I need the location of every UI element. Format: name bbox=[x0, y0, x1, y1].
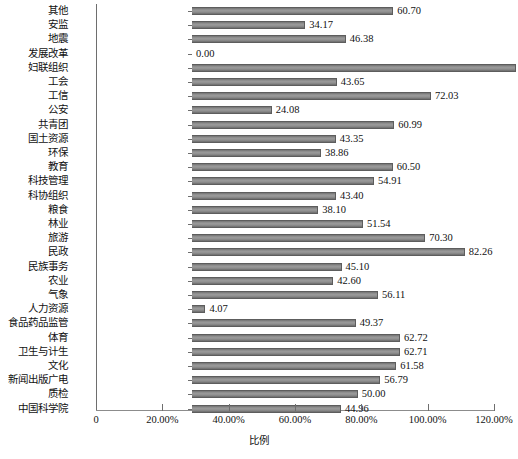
bar bbox=[192, 390, 358, 398]
bar-value-label: 0.00 bbox=[196, 47, 214, 61]
category-label: 质检 bbox=[0, 387, 68, 401]
bar-row: 国土资源43.35 bbox=[96, 132, 494, 146]
bar-row: 共青团60.99 bbox=[96, 118, 494, 132]
bar bbox=[192, 263, 342, 271]
bar-row: 气象56.11 bbox=[96, 288, 494, 302]
category-label: 国土资源 bbox=[0, 132, 68, 146]
x-axis-tick bbox=[295, 404, 296, 411]
bar bbox=[192, 305, 205, 313]
bar-value-label: 70.30 bbox=[429, 231, 453, 245]
bar-row: 公安24.08 bbox=[96, 103, 494, 117]
bar bbox=[192, 149, 321, 157]
bar-row: 民政82.26 bbox=[96, 245, 494, 259]
bar-row: 工信72.03 bbox=[96, 89, 494, 103]
category-label: 工信 bbox=[0, 89, 68, 103]
bar bbox=[192, 334, 400, 342]
x-axis-tick-label: 40.00% bbox=[212, 413, 244, 427]
bar-row: 发展改革0.00 bbox=[96, 47, 494, 61]
x-axis-tick-label: 0 bbox=[93, 413, 98, 427]
bar-value-label: 60.70 bbox=[397, 4, 421, 18]
bar-value-label: 45.10 bbox=[346, 260, 370, 274]
bar-value-label: 46.38 bbox=[350, 32, 374, 46]
bar-value-label: 4.07 bbox=[209, 302, 227, 316]
category-label: 地震 bbox=[0, 32, 68, 46]
bar-value-label: 72.03 bbox=[435, 89, 459, 103]
bar bbox=[192, 319, 356, 327]
bar-row: 林业51.54 bbox=[96, 217, 494, 231]
bar bbox=[192, 362, 396, 370]
x-axis-tick bbox=[428, 404, 429, 411]
bar-value-label: 34.17 bbox=[309, 18, 333, 32]
bar-row: 食品药品监管49.37 bbox=[96, 316, 494, 330]
category-label: 教育 bbox=[0, 160, 68, 174]
bar-value-label: 38.10 bbox=[322, 203, 346, 217]
bar bbox=[192, 35, 346, 43]
bar bbox=[192, 78, 337, 86]
bar-row: 其他60.70 bbox=[96, 4, 494, 18]
category-label: 公安 bbox=[0, 103, 68, 117]
category-label: 共青团 bbox=[0, 118, 68, 132]
bar-value-label: 38.86 bbox=[325, 146, 349, 160]
bar-value-label: 60.50 bbox=[397, 160, 421, 174]
category-label: 新闻出版广电 bbox=[0, 373, 68, 387]
bar-row: 环保38.86 bbox=[96, 146, 494, 160]
bar-value-label: 62.72 bbox=[404, 331, 428, 345]
bar bbox=[192, 121, 394, 129]
bar-row: 人力资源4.07 bbox=[96, 302, 494, 316]
category-label: 卫生与计生 bbox=[0, 345, 68, 359]
bar bbox=[192, 405, 341, 413]
x-axis-tick bbox=[162, 404, 163, 411]
bar-row: 科协组织43.40 bbox=[96, 189, 494, 203]
bar bbox=[192, 291, 378, 299]
bar bbox=[192, 64, 516, 72]
bar-value-label: 24.08 bbox=[276, 103, 300, 117]
bar-row: 地震46.38 bbox=[96, 32, 494, 46]
bar-value-label: 43.35 bbox=[340, 132, 364, 146]
category-label: 林业 bbox=[0, 217, 68, 231]
category-label: 体育 bbox=[0, 331, 68, 345]
bar-value-label: 60.99 bbox=[398, 118, 422, 132]
category-label: 妇联组织 bbox=[0, 61, 68, 75]
category-label: 民政 bbox=[0, 245, 68, 259]
bar bbox=[192, 192, 336, 200]
category-label: 发展改革 bbox=[0, 47, 68, 61]
bar bbox=[192, 135, 336, 143]
category-label: 文化 bbox=[0, 359, 68, 373]
bar-row: 农业42.60 bbox=[96, 274, 494, 288]
x-axis-tick bbox=[494, 404, 495, 411]
x-axis-tick-label: 120.00% bbox=[475, 413, 513, 427]
x-axis-title: 比例 bbox=[0, 432, 518, 447]
category-label: 农业 bbox=[0, 274, 68, 288]
bar-value-label: 49.37 bbox=[360, 316, 384, 330]
category-label: 科技管理 bbox=[0, 174, 68, 188]
bar bbox=[192, 7, 393, 15]
bar-row: 科技管理54.91 bbox=[96, 174, 494, 188]
bar-row: 文化61.58 bbox=[96, 359, 494, 373]
bar-row: 质检50.00 bbox=[96, 387, 494, 401]
category-label: 其他 bbox=[0, 4, 68, 18]
bar-row: 工会43.65 bbox=[96, 75, 494, 89]
bar-value-label: 82.26 bbox=[469, 245, 493, 259]
x-axis-tick bbox=[361, 404, 362, 411]
bar bbox=[192, 220, 363, 228]
bar-row: 旅游70.30 bbox=[96, 231, 494, 245]
x-axis-tick-label: 100.00% bbox=[409, 413, 447, 427]
bar bbox=[192, 177, 374, 185]
category-label: 人力资源 bbox=[0, 302, 68, 316]
bar bbox=[192, 163, 393, 171]
bar-value-label: 51.54 bbox=[367, 217, 391, 231]
category-label: 安监 bbox=[0, 18, 68, 32]
bar-value-label: 56.11 bbox=[382, 288, 405, 302]
bar-chart: 其他60.70安监34.17地震46.38发展改革0.00妇联组织97.73工会… bbox=[0, 0, 518, 459]
bar-value-label: 62.71 bbox=[404, 345, 428, 359]
category-label: 环保 bbox=[0, 146, 68, 160]
category-label: 气象 bbox=[0, 288, 68, 302]
category-label: 粮食 bbox=[0, 203, 68, 217]
category-label: 科协组织 bbox=[0, 189, 68, 203]
bar-row: 新闻出版广电56.79 bbox=[96, 373, 494, 387]
bar-value-label: 43.65 bbox=[341, 75, 365, 89]
bar-row: 安监34.17 bbox=[96, 18, 494, 32]
x-axis-tick-label: 20.00% bbox=[146, 413, 178, 427]
category-label: 食品药品监管 bbox=[0, 316, 68, 330]
x-axis-tick-label: 80.00% bbox=[345, 413, 377, 427]
